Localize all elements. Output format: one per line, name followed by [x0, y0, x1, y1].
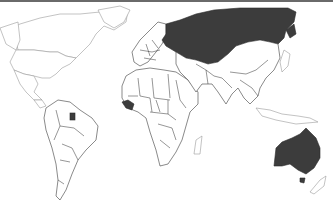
country-europe — [132, 22, 166, 66]
map-svg — [0, 0, 333, 201]
country-alaska — [0, 22, 20, 50]
country-suriname — [70, 113, 75, 120]
country-new-zealand — [310, 176, 326, 194]
country-australia-tasmania — [300, 178, 305, 183]
country-australia — [274, 128, 320, 174]
country-madagascar — [194, 136, 202, 154]
world-map — [0, 0, 333, 201]
country-japan — [280, 50, 290, 72]
country-central-america — [34, 100, 46, 108]
country-africa — [122, 68, 198, 166]
country-indonesia — [256, 108, 318, 124]
